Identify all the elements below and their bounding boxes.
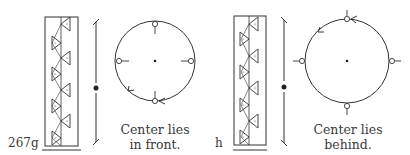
center-dot-h [346, 60, 349, 63]
strip-h [233, 16, 267, 150]
strip-g [42, 17, 81, 150]
figure-label-h: h [215, 136, 223, 150]
caption-g-line1: Center lies [105, 123, 205, 137]
axis-line-h [281, 17, 287, 146]
caption-h-line2: behind. [298, 138, 398, 152]
figure-label-g: 267g [8, 136, 39, 150]
axis-line-g [93, 19, 99, 145]
center-dot-g [154, 60, 157, 63]
caption-g-line2: in front. [105, 138, 205, 152]
arrow-icon [159, 98, 165, 104]
pivot-dot-g [94, 86, 99, 91]
caption-h-line1: Center lies [298, 123, 398, 137]
pivot-dot-h [282, 85, 287, 90]
arrow-icon [128, 86, 134, 91]
rotation-circle-g [115, 21, 195, 104]
rotation-circle-h [293, 10, 401, 115]
